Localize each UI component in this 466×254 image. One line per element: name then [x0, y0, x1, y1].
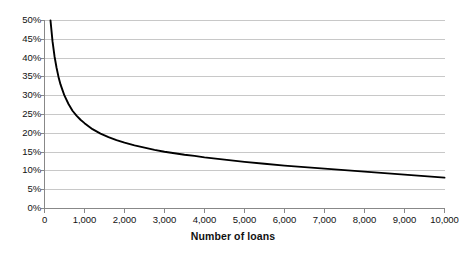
x-axis-tick-label: 9,000 [393, 215, 416, 225]
x-axis-tick-label: 3,000 [153, 215, 176, 225]
x-axis-tick-label: 10,000 [430, 215, 458, 225]
x-axis-tick-label: 6,000 [273, 215, 296, 225]
x-axis-tick-label: 5,000 [233, 215, 256, 225]
x-axis-tick-label: 7,000 [313, 215, 336, 225]
x-axis-tick-label: 1,000 [73, 215, 96, 225]
x-axis-title: Number of loans [0, 230, 466, 242]
x-axis-tick-label: 8,000 [353, 215, 376, 225]
x-axis-tick-labels: 01,0002,0003,0004,0005,0006,0007,0008,00… [0, 0, 466, 254]
x-axis-tick-label: 0 [42, 215, 47, 225]
chart-container: 0%5%10%15%20%25%30%35%40%45%50% 01,0002,… [0, 0, 466, 254]
x-axis-tick-label: 2,000 [113, 215, 136, 225]
x-axis-tick-label: 4,000 [193, 215, 216, 225]
